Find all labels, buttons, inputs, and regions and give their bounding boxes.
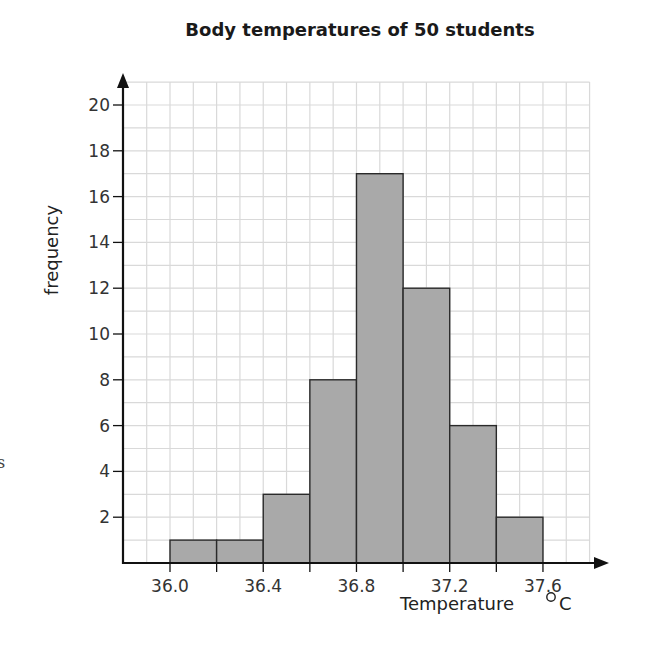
x-tick-label: 36.0 (151, 576, 189, 596)
chart-title: Body temperatures of 50 students (185, 19, 534, 40)
histogram-bar (356, 174, 403, 563)
y-tick-label: 20 (88, 95, 110, 115)
y-tick-label: 18 (88, 141, 110, 161)
y-axis-ticks: 2468101214161820 (88, 95, 123, 527)
x-axis-label-text: Temperature (399, 593, 514, 614)
celsius-symbol: C (559, 593, 572, 614)
y-axis-label: frequency (41, 205, 62, 296)
x-axis-ticks: 36.036.436.837.237.6 (151, 563, 562, 596)
y-tick-label: 6 (99, 416, 110, 436)
x-tick-label: 37.6 (524, 576, 562, 596)
y-axis-arrow-icon (117, 73, 129, 88)
y-tick-label: 16 (88, 187, 110, 207)
histogram-bar (310, 380, 357, 563)
x-axis-arrow-icon (594, 557, 609, 569)
margin-text-fragment: s (0, 453, 5, 472)
histogram-bar (263, 494, 310, 563)
histogram-bar (217, 540, 264, 563)
histogram-bars (170, 174, 543, 563)
y-tick-label: 4 (99, 461, 110, 481)
y-tick-label: 12 (88, 278, 110, 298)
y-tick-label: 2 (99, 507, 110, 527)
y-tick-label: 10 (88, 324, 110, 344)
x-tick-label: 36.4 (244, 576, 282, 596)
histogram-bar (170, 540, 217, 563)
x-tick-label: 36.8 (338, 576, 376, 596)
histogram-chart: Body temperatures of 50 students 2468101… (0, 0, 654, 649)
histogram-bar (496, 517, 543, 563)
y-tick-label: 8 (99, 370, 110, 390)
x-axis-label: Temperature (399, 593, 514, 614)
y-tick-label: 14 (88, 232, 110, 252)
histogram-bar (403, 288, 450, 563)
histogram-bar (450, 426, 497, 563)
